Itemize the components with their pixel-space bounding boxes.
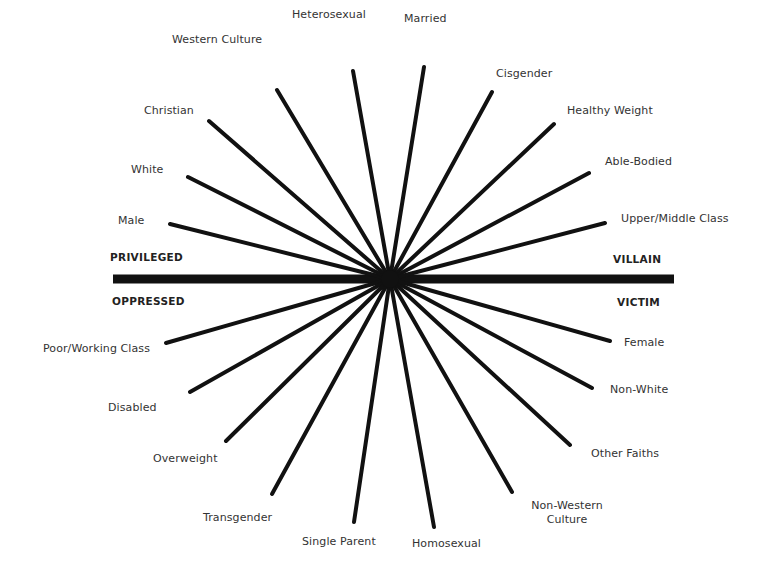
label-homosexual: Homosexual — [412, 537, 481, 551]
label-non-western-culture-line2: Culture — [526, 513, 608, 527]
privileged-label: PRIVILEGED — [110, 251, 183, 263]
spokes-graphic — [0, 0, 773, 574]
villain-label: VILLAIN — [613, 253, 661, 265]
label-western-culture: Western Culture — [172, 33, 262, 47]
center-hub — [381, 270, 399, 288]
label-white: White — [131, 163, 164, 177]
label-non-western-culture-line1: Non-Western — [526, 499, 608, 513]
label-non-white: Non-White — [610, 383, 668, 397]
label-female: Female — [624, 336, 664, 350]
label-disabled: Disabled — [108, 401, 157, 415]
label-healthy-weight: Healthy Weight — [567, 104, 653, 118]
oppressed-label: OPPRESSED — [112, 295, 185, 307]
privilege-oppression-wheel: PRIVILEGED OPPRESSED VILLAIN VICTIM Male… — [0, 0, 773, 574]
label-married: Married — [404, 12, 447, 26]
label-male: Male — [118, 214, 144, 228]
label-poor-working-class: Poor/Working Class — [43, 342, 150, 356]
label-cisgender: Cisgender — [496, 67, 552, 81]
label-heterosexual: Heterosexual — [292, 8, 366, 22]
label-transgender: Transgender — [203, 511, 272, 525]
label-other-faiths: Other Faiths — [591, 447, 659, 461]
label-overweight: Overweight — [153, 452, 218, 466]
label-upper-middle-class: Upper/Middle Class — [621, 212, 729, 226]
label-non-western-culture: Non-Western Culture — [526, 499, 608, 527]
victim-label: VICTIM — [617, 296, 660, 308]
label-single-parent: Single Parent — [302, 535, 376, 549]
label-christian: Christian — [144, 104, 194, 118]
label-able-bodied: Able-Bodied — [605, 155, 672, 169]
